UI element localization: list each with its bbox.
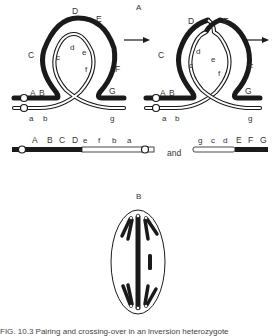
acentric-fragment: [148, 254, 152, 270]
label-A: A: [30, 88, 36, 98]
left-loop: A B C D E F G a b c d e f g: [14, 6, 124, 123]
product-label: e: [83, 136, 88, 145]
label-B: B: [169, 88, 175, 98]
label-f: f: [85, 65, 88, 74]
product-label: C: [59, 135, 65, 145]
label-c: c: [56, 53, 60, 62]
label-c: c: [189, 61, 193, 70]
centromere-icon: [153, 95, 160, 102]
centromere-icon: [142, 146, 149, 153]
arrow-right-icon: [124, 37, 150, 43]
product-acentric: g c d E F G: [193, 135, 268, 152]
label-b: b: [43, 114, 48, 123]
label-d: d: [70, 43, 74, 52]
label-C: C: [28, 50, 34, 60]
panel-label-a: A: [136, 3, 142, 12]
label-F: F: [248, 62, 253, 72]
product-label: F: [248, 135, 253, 145]
label-g: g: [110, 114, 114, 123]
product-label: D: [72, 135, 78, 145]
product-label: d: [223, 136, 227, 145]
panel-label-b: B: [136, 192, 141, 201]
and-connector: and: [167, 148, 181, 158]
product-label: G: [260, 135, 267, 145]
label-F: F: [115, 64, 120, 74]
product-label: E: [236, 135, 242, 145]
centromere-icon: [21, 95, 28, 102]
label-B: B: [39, 88, 45, 98]
anaphase-cell: [111, 210, 165, 314]
figure-caption: FIG. 10.3 Pairing and crossing-over in a…: [0, 326, 276, 336]
label-G: G: [109, 86, 116, 96]
centromere-icon: [153, 105, 160, 112]
label-e: e: [211, 55, 216, 64]
centromere-icon: [19, 146, 26, 153]
label-e: e: [82, 48, 87, 57]
label-g: g: [248, 114, 252, 123]
product-label: a: [127, 136, 132, 145]
label-E: E: [223, 16, 229, 26]
product-label: f: [98, 136, 101, 145]
label-E: E: [96, 14, 102, 24]
label-a: a: [162, 114, 167, 123]
anaphase-bridge: [136, 215, 141, 310]
label-D: D: [188, 16, 194, 26]
label-b: b: [175, 114, 180, 123]
label-D: D: [72, 6, 78, 16]
label-G: G: [245, 86, 252, 96]
product-label: c: [211, 136, 215, 145]
arrow-right-icon: [245, 37, 269, 43]
centromere-icon: [21, 105, 28, 112]
product-label: B: [47, 135, 53, 145]
label-d: d: [196, 47, 200, 56]
product-label: b: [112, 136, 117, 145]
label-A: A: [160, 88, 166, 98]
label-a: a: [29, 114, 34, 123]
product-dicentric: A B C D e f b a: [12, 135, 154, 153]
label-f: f: [218, 69, 221, 78]
label-C: C: [158, 50, 164, 60]
right-dark-chromatid-right: [220, 20, 260, 98]
product-label: g: [198, 136, 202, 145]
product-label: A: [32, 135, 38, 145]
right-loop: A B C D E F G a b c d e f g: [146, 16, 260, 123]
